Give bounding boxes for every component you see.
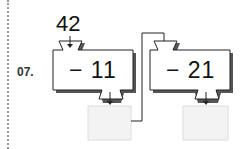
operation-1: − 11 bbox=[69, 57, 117, 83]
question-number: 07. bbox=[17, 65, 34, 79]
operation-2: − 21 bbox=[166, 57, 215, 83]
answer-input-2[interactable] bbox=[183, 106, 228, 140]
start-value: 42 bbox=[56, 12, 80, 36]
answer-input-1[interactable] bbox=[88, 106, 131, 140]
